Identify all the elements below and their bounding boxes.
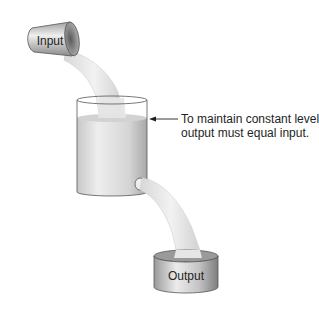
- tank: [77, 96, 147, 196]
- output-label: Output: [168, 269, 205, 283]
- input-bucket: Input: [28, 21, 82, 57]
- annotation-text: To maintain constant level, output must …: [181, 112, 319, 140]
- output-bucket: Output: [154, 250, 218, 293]
- output-water-stream: [140, 178, 202, 258]
- level-arrow: [149, 117, 178, 122]
- annotation-line-2: output must equal input.: [181, 126, 319, 140]
- input-label: Input: [37, 34, 64, 48]
- flow-diagram: Input Output: [0, 0, 319, 311]
- annotation-line-1: To maintain constant level,: [181, 112, 319, 126]
